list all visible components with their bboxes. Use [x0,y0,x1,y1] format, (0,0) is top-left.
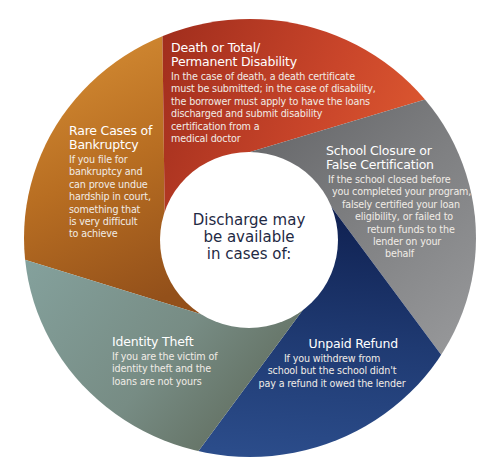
body-line: to achieve [69,228,152,240]
segment-label-school-closure: School Closure or False Certification If… [326,144,471,261]
body-line: you completed your program, [326,186,471,198]
body-line: hardship in court, [69,191,152,203]
title-line: False Certification [326,158,471,172]
title-line: Rare Cases of [69,124,152,138]
body-line: discharged and submit disability [171,108,376,120]
body-line: certification from a [171,121,376,133]
title-line: Permanent Disability [171,55,376,69]
body-line: the borrower must apply to have the loan… [171,96,376,108]
body-line: falsely certified your loan [326,199,471,211]
center-line: be available [178,229,320,246]
segment-label-bankruptcy: Rare Cases of Bankruptcy If you file for… [69,124,152,241]
segment-label-unpaid-refund: Unpaid Refund If you withdrew from schoo… [258,337,406,390]
body-line: In the case of death, a death certificat… [171,71,376,83]
body-line: If you are the victim of [112,351,217,363]
segment-description: If you are the victim of identity theft … [112,351,217,388]
segment-title: Death or Total/ Permanent Disability [171,41,376,69]
segment-description: If you withdrew from school but the scho… [258,353,406,390]
body-line: is very difficult [69,216,152,228]
body-line: loans are not yours [112,376,217,388]
body-line: lender on your [326,236,471,248]
segment-title: Rare Cases of Bankruptcy [69,124,152,152]
body-line: If you withdrew from [258,353,406,365]
body-line: school but the school didn't [258,365,406,377]
segment-description: If you file for bankruptcy and can prove… [69,154,152,241]
title-line: Death or Total/ [171,41,376,55]
body-line: If you file for [69,154,152,166]
body-line: pay a refund it owed the lender [258,378,406,390]
title-line: Identity Theft [112,335,217,349]
body-line: behalf [326,248,471,260]
body-line: something that [69,204,152,216]
body-line: identity theft and the [112,363,217,375]
body-line: must be submitted; in the case of disabi… [171,83,376,95]
body-line: return funds to the [326,224,471,236]
segment-description: If the school closed before you complete… [326,174,471,261]
segment-title: Unpaid Refund [258,337,406,351]
center-line: in cases of: [178,246,320,263]
center-label: Discharge may be available in cases of: [178,212,320,263]
segment-title: Identity Theft [112,335,217,349]
body-line: If the school closed before [326,174,471,186]
body-line: can prove undue [69,179,152,191]
body-line: eligibility, or failed to [326,211,471,223]
title-line: Bankruptcy [69,138,152,152]
title-line: Unpaid Refund [258,337,398,351]
segment-label-identity-theft: Identity Theft If you are the victim of … [112,335,217,388]
segment-description: In the case of death, a death certificat… [171,71,376,145]
title-line: School Closure or [326,144,471,158]
center-line: Discharge may [178,212,320,229]
body-line: bankruptcy and [69,166,152,178]
segment-label-death-disability: Death or Total/ Permanent Disability In … [171,41,376,145]
segment-title: School Closure or False Certification [326,144,471,172]
